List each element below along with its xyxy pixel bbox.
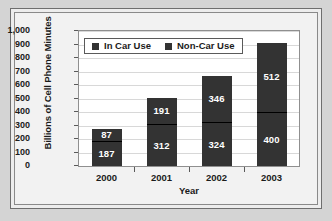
y-axis-tick-label: 1,000 [0,26,30,35]
y-axis-tick-label: 100 [0,148,30,157]
y-axis-tick-label: 200 [0,134,30,143]
legend-swatch-icon [165,43,172,50]
bar-segment-non-car-use[interactable]: 346 [202,76,232,123]
bar-segment-in-car-use[interactable]: 312 [147,124,177,166]
bar-segment-in-car-use[interactable]: 324 [202,122,232,166]
y-axis-tick-label: 700 [0,67,30,76]
y-axis-tick-label: 900 [0,40,30,49]
bar-value-label: 191 [147,106,177,116]
bar-value-label: 187 [92,149,122,159]
bar-group[interactable]: 400512 [257,31,287,166]
legend-label: Non-Car Use [177,41,235,51]
bar-segment-non-car-use[interactable]: 512 [257,43,287,112]
bar-segment-in-car-use[interactable]: 187 [92,141,122,166]
bar-segment-non-car-use[interactable]: 87 [92,129,122,141]
x-axis-tick-mark [134,167,135,172]
legend-item[interactable]: In Car Use [92,41,151,51]
chart-figure: Billions of Cell Phone Minutes 010020030… [0,0,332,221]
y-axis-tick-label: 500 [0,94,30,103]
y-axis-tick-label: 800 [0,53,30,62]
y-axis-tick-label: 400 [0,107,30,116]
bar-segment-non-car-use[interactable]: 191 [147,98,177,124]
bar-value-label: 512 [257,72,287,82]
legend-item[interactable]: Non-Car Use [165,41,235,51]
chart-legend: In Car UseNon-Car Use [84,38,243,54]
x-axis-tick-label: 2001 [137,172,187,183]
bar-segment-in-car-use[interactable]: 400 [257,112,287,166]
x-axis-tick-label: 2002 [192,172,242,183]
x-axis-tick-label: 2003 [247,172,297,183]
bar-value-label: 346 [202,94,232,104]
chart-plot-container: Billions of Cell Phone Minutes 010020030… [16,14,316,203]
y-axis-title: Billions of Cell Phone Minutes [41,8,55,158]
bar-value-label: 324 [202,140,232,150]
x-axis-tick-mark [189,167,190,172]
legend-swatch-icon [92,43,99,50]
y-axis-tick-label: 600 [0,80,30,89]
legend-label: In Car Use [104,41,151,51]
bar-value-label: 312 [147,141,177,151]
x-axis-tick-label: 2000 [82,172,132,183]
y-axis-tick-label: 300 [0,121,30,130]
x-axis-title: Year [78,185,300,196]
bar-value-label: 400 [257,135,287,145]
bar-value-label: 87 [92,130,122,140]
y-axis-tick-label: 0 [0,161,30,170]
x-axis-tick-mark [244,167,245,172]
